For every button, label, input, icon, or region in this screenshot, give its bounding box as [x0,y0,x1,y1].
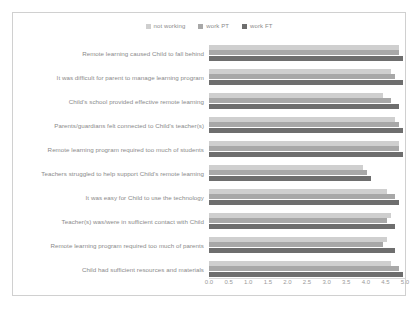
bar-group [209,260,407,279]
x-tick-label: 5.0 [401,279,409,285]
x-tick-label: 1.5 [264,279,272,285]
chart-row: It was difficult for parent to manage le… [13,65,407,89]
bar-2 [209,128,403,133]
bar-0 [209,69,391,74]
legend-swatch-icon [198,24,203,29]
bar-1 [209,218,387,223]
bar-1 [209,50,399,55]
bar-0 [209,213,391,218]
x-tick-label: 4.0 [362,279,370,285]
legend-swatch-icon [242,24,247,29]
category-label: Remote learning caused Child to fall beh… [13,50,209,57]
bar-2 [209,200,399,205]
chart-row: Teachers struggled to help support Child… [13,161,407,185]
x-tick-label: 1.0 [244,279,252,285]
bar-group [209,68,407,87]
chart-row: Remote learning program required too muc… [13,233,407,257]
category-label: It was difficult for parent to manage le… [13,74,209,81]
chart-legend: not workingwork PTwork FT [13,23,405,29]
bar-group [209,140,407,159]
bar-1 [209,146,399,151]
bar-2 [209,176,371,181]
bar-0 [209,141,399,146]
x-axis-tick-labels: 0.00.51.01.52.02.53.03.54.04.55.0 [209,279,405,291]
bar-1 [209,98,391,103]
bar-group [209,92,407,111]
chart-row: Parents/guardians felt connected to Chil… [13,113,407,137]
x-tick-label: 0.5 [224,279,232,285]
bar-group [209,212,407,231]
bar-group [209,116,407,135]
x-tick-label: 3.5 [342,279,350,285]
bar-group [209,164,407,183]
bar-1 [209,194,395,199]
bar-0 [209,117,395,122]
bar-1 [209,242,383,247]
category-label: Child had sufficient resources and mater… [13,266,209,273]
category-label: Remote learning program required too muc… [13,146,209,153]
legend-label: work PT [206,23,229,29]
bar-2 [209,248,395,253]
x-tick-label: 4.5 [381,279,389,285]
bar-0 [209,261,391,266]
plot-area: Remote learning caused Child to fall beh… [13,39,407,297]
bar-0 [209,45,399,50]
bar-0 [209,93,383,98]
bar-group [209,44,407,63]
bar-group [209,236,407,255]
chart-row: Remote learning program required too muc… [13,137,407,161]
bar-1 [209,74,395,79]
chart-row: It was easy for Child to use the technol… [13,185,407,209]
x-tick-label: 0.0 [205,279,213,285]
category-label: Remote learning program required too muc… [13,242,209,249]
bar-2 [209,56,403,61]
bar-0 [209,189,387,194]
category-label: Teacher(s) was/were in sufficient contac… [13,218,209,225]
category-label: It was easy for Child to use the technol… [13,194,209,201]
bar-1 [209,122,399,127]
bar-2 [209,224,395,229]
legend-item-1[interactable]: work PT [198,23,229,29]
bar-1 [209,266,399,271]
category-label: Parents/guardians felt connected to Chil… [13,122,209,129]
chart-row: Remote learning caused Child to fall beh… [13,41,407,65]
legend-item-2[interactable]: work FT [242,23,272,29]
x-tick-label: 2.0 [283,279,291,285]
x-tick-label: 2.5 [303,279,311,285]
category-label: Teachers struggled to help support Child… [13,170,209,177]
bar-2 [209,152,403,157]
bar-0 [209,237,387,242]
bar-2 [209,80,403,85]
bar-group [209,188,407,207]
bar-1 [209,170,367,175]
chart-row: Teacher(s) was/were in sufficient contac… [13,209,407,233]
category-label: Child's school provided effective remote… [13,98,209,105]
legend-swatch-icon [146,24,151,29]
legend-item-0[interactable]: not working [146,23,186,29]
bar-2 [209,272,403,277]
chart-container: not workingwork PTwork FT Remote learnin… [12,12,406,296]
x-tick-label: 3.0 [322,279,330,285]
legend-label: not working [154,23,186,29]
bar-0 [209,165,363,170]
bar-2 [209,104,399,109]
chart-row: Child's school provided effective remote… [13,89,407,113]
legend-label: work FT [250,23,272,29]
